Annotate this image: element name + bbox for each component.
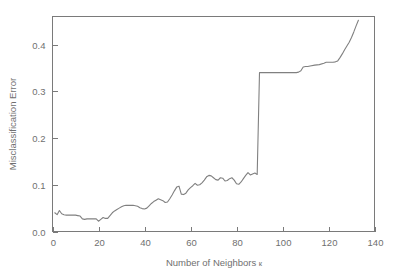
y-tick-label: 0.4 (32, 40, 45, 51)
x-tick-label: 100 (276, 237, 292, 248)
plot-background (52, 16, 375, 232)
y-axis-title: Misclassification Error (7, 78, 18, 170)
x-tick-label: 20 (94, 237, 105, 248)
y-tick-label: 0.0 (32, 227, 45, 238)
y-tick-label: 0.1 (32, 180, 45, 191)
chart-figure: 020406080100120140 0.00.10.20.30.4 Numbe… (0, 0, 394, 280)
x-axis-title: Number of Neighbors к (166, 257, 263, 268)
y-tick-label: 0.2 (32, 133, 45, 144)
x-tick-label: 60 (186, 237, 197, 248)
x-tick-label: 120 (322, 237, 338, 248)
misclassification-error-line-chart: 020406080100120140 0.00.10.20.30.4 Numbe… (0, 0, 394, 280)
x-tick-label: 140 (368, 237, 384, 248)
y-axis-tick-labels: 0.00.10.20.30.4 (32, 40, 45, 238)
x-tick-label: 40 (140, 237, 151, 248)
x-tick-label: 80 (232, 237, 243, 248)
x-tick-label: 0 (51, 237, 56, 248)
x-axis-tick-labels: 020406080100120140 (51, 237, 384, 248)
y-tick-label: 0.3 (32, 86, 45, 97)
